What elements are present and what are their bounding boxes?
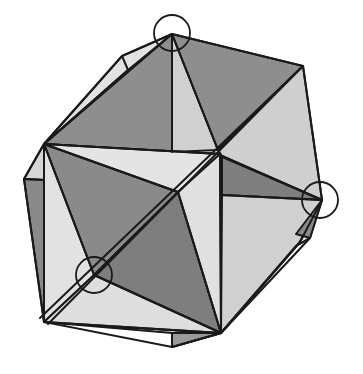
- polyhedron-figure: [0, 0, 363, 374]
- polyhedron-svg: [0, 0, 363, 374]
- face-right-lower-light: [221, 195, 322, 333]
- edge-left-flap: [24, 179, 44, 180]
